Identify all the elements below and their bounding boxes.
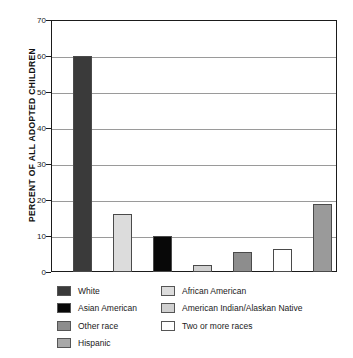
legend-column-left: WhiteAsian AmericanOther raceHispanic [57,282,167,352]
y-tick-label-10: 10 [24,232,46,241]
legend-label: Hispanic [78,339,111,348]
y-tick-label-50: 50 [24,88,46,97]
legend-item-right-2[interactable]: Two or more races [161,317,351,335]
legend-swatch-icon [57,338,71,348]
y-tick-mark-30 [46,164,51,165]
y-tick-mark-40 [46,128,51,129]
y-tick-mark-0 [46,272,51,273]
bar-2 [153,236,172,272]
legend-item-right-1[interactable]: American Indian/Alaskan Native [161,300,351,318]
legend-item-left-2[interactable]: Other race [57,317,167,335]
legend-item-left-3[interactable]: Hispanic [57,335,167,353]
y-tick-label-30: 30 [24,160,46,169]
bar-5 [273,249,292,272]
bar-4 [233,252,252,272]
legend-label: White [78,287,100,296]
y-tick-label-70: 70 [24,16,46,25]
bar-chart: PERCENT OF ALL ADOPTED CHILDREN 70605040… [0,0,353,358]
bar-6 [313,204,332,272]
y-tick-mark-20 [46,200,51,201]
legend-swatch-icon [161,321,175,331]
y-tick-label-0: 0 [24,268,46,277]
legend-label: Other race [78,322,118,331]
legend-item-left-0[interactable]: White [57,282,167,300]
legend-column-right: African AmericanAmerican Indian/Alaskan … [161,282,351,335]
y-axis-tick-labels: 706050403020100 [20,20,46,272]
legend-label: Asian American [78,304,137,313]
y-tick-label-20: 20 [24,196,46,205]
bars-layer [51,20,337,272]
y-tick-mark-10 [46,236,51,237]
bar-3 [193,265,212,272]
legend-swatch-icon [57,321,71,331]
y-tick-mark-70 [46,20,51,21]
y-tick-label-40: 40 [24,124,46,133]
bar-1 [113,214,132,272]
legend-label: American Indian/Alaskan Native [182,304,302,313]
y-tick-label-60: 60 [24,52,46,61]
legend-label: Two or more races [182,322,252,331]
legend-swatch-icon [161,286,175,296]
legend-label: African American [182,287,246,296]
legend-swatch-icon [161,303,175,313]
y-tick-mark-50 [46,92,51,93]
y-tick-mark-60 [46,56,51,57]
legend-item-right-0[interactable]: African American [161,282,351,300]
legend-swatch-icon [57,286,71,296]
bar-0 [73,56,92,272]
chart-legend: WhiteAsian AmericanOther raceHispanic Af… [57,282,349,354]
legend-item-left-1[interactable]: Asian American [57,300,167,318]
legend-swatch-icon [57,303,71,313]
